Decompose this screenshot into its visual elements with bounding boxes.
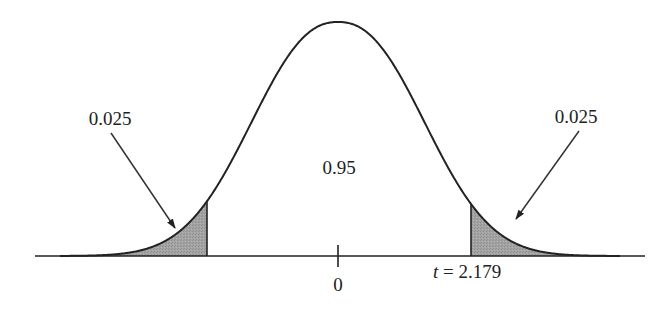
t-value: = 2.179 [438,261,501,282]
right-tail-arrow-icon [516,131,579,219]
critical-value-label: t = 2.179 [433,261,501,282]
left-tail-arrow-icon [111,133,175,228]
left-tail-area-label: 0.025 [89,108,132,129]
right-tail-area-label: 0.025 [555,106,598,127]
zero-tick-label: 0 [333,274,343,295]
center-area-label: 0.95 [322,157,355,178]
left-tail-shaded-region [60,201,207,256]
chart-canvas: 0.025 0.025 0.95 0 t = 2.179 [0,0,669,312]
density-curve [60,22,620,256]
t-distribution-figure: 0.025 0.025 0.95 0 t = 2.179 [0,0,669,312]
